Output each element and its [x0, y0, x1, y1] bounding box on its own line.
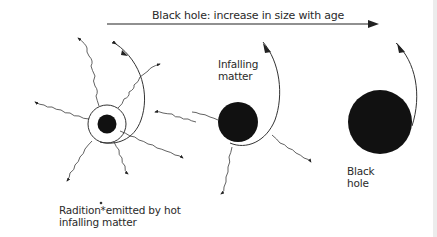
stage-young [35, 38, 196, 181]
black-hole-core-small [98, 115, 117, 134]
age-arrow-label: Black hole: increase in size with age [152, 10, 344, 22]
stage-old [348, 43, 417, 154]
radiation-label-line2: infalling matter [59, 216, 137, 228]
black-hole-core-large [348, 90, 412, 154]
black-hole-label-line1: Black [347, 165, 374, 177]
infalling-matter-label-line2: matter [218, 70, 252, 82]
diagram-canvas [0, 0, 437, 237]
radiation-rays-young [35, 38, 196, 181]
infalling-matter-label-line1: Infalling [218, 58, 258, 70]
radiation-label-line1: Radition*emitted by hot [59, 204, 181, 216]
black-hole-core-medium [218, 102, 258, 142]
black-hole-label-line2: hole [347, 177, 369, 189]
